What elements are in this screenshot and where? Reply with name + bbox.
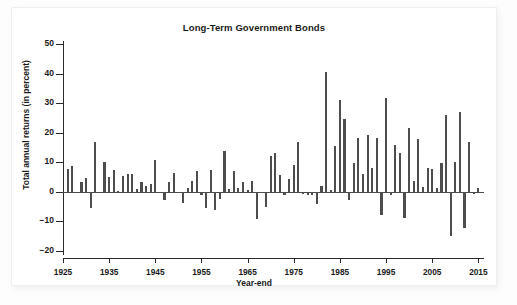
- bar: [311, 192, 313, 196]
- bar: [371, 168, 373, 192]
- chart-panel: Long-Term Government Bonds Total annual …: [11, 7, 497, 286]
- bar: [210, 170, 212, 192]
- x-axis-title: Year-end: [12, 278, 496, 288]
- bar: [270, 156, 272, 192]
- bar: [200, 192, 202, 196]
- bar: [163, 192, 165, 200]
- bar: [343, 119, 345, 191]
- bar: [288, 179, 290, 192]
- bar: [256, 192, 258, 219]
- y-tick-label: 40: [14, 68, 54, 78]
- bar: [191, 181, 193, 192]
- bar: [99, 192, 101, 193]
- bar: [348, 192, 350, 200]
- bar: [408, 128, 410, 192]
- bar: [108, 177, 110, 192]
- bar: [159, 192, 161, 193]
- bar: [399, 153, 401, 192]
- bar: [251, 181, 253, 192]
- bar: [196, 171, 198, 192]
- x-tick-label: 1995: [366, 267, 406, 277]
- bar: [403, 192, 405, 219]
- bar: [182, 192, 184, 204]
- bar: [334, 146, 336, 192]
- bar: [205, 192, 207, 209]
- bar: [136, 189, 138, 192]
- chart-title: Long-Term Government Bonds: [12, 22, 496, 33]
- bar: [330, 190, 332, 192]
- bar: [353, 163, 355, 192]
- bar: [214, 192, 216, 210]
- bar: [67, 169, 69, 192]
- bar: [357, 138, 359, 192]
- bar: [90, 192, 92, 208]
- bar: [445, 115, 447, 192]
- bar: [242, 182, 244, 192]
- y-tick: [56, 251, 63, 252]
- bar: [367, 135, 369, 192]
- y-tick-label: 30: [14, 97, 54, 107]
- bar: [145, 186, 147, 192]
- bar: [390, 192, 392, 195]
- x-tick-label: 1985: [320, 267, 360, 277]
- y-tick: [56, 192, 63, 193]
- bar: [228, 189, 230, 192]
- x-tick-label: 1935: [89, 267, 129, 277]
- bar: [380, 192, 382, 215]
- y-tick: [56, 44, 63, 45]
- x-tick-label: 2015: [458, 267, 498, 277]
- bar: [339, 100, 341, 192]
- figure-root: Long-Term Government Bonds Total annual …: [0, 0, 517, 305]
- x-tick-label: 2005: [412, 267, 452, 277]
- y-tick-label: −10: [14, 215, 54, 225]
- bar: [94, 142, 96, 192]
- bar: [325, 72, 327, 191]
- y-tick-label: 0: [14, 186, 54, 196]
- bar: [113, 170, 115, 192]
- bar: [85, 178, 87, 192]
- bar: [127, 174, 129, 191]
- y-tick-label: 50: [14, 38, 54, 48]
- bar: [473, 192, 475, 194]
- bar: [302, 192, 304, 194]
- plot-area: [63, 37, 483, 259]
- x-tick-label: 1925: [43, 267, 83, 277]
- bar: [459, 112, 461, 192]
- y-tick: [56, 74, 63, 75]
- bar: [440, 163, 442, 192]
- bar: [223, 151, 225, 192]
- bar: [320, 186, 322, 192]
- bar: [431, 169, 433, 192]
- bar: [154, 160, 156, 192]
- bar: [394, 145, 396, 192]
- bar: [463, 192, 465, 228]
- bar: [427, 168, 429, 192]
- bar: [274, 153, 276, 192]
- bar: [413, 181, 415, 192]
- bar: [80, 182, 82, 192]
- bar: [173, 173, 175, 192]
- bar: [385, 98, 387, 192]
- y-tick: [56, 133, 63, 134]
- bar: [233, 171, 235, 191]
- bar: [122, 176, 124, 192]
- bar: [265, 192, 267, 207]
- bar: [454, 162, 456, 192]
- bar: [362, 174, 364, 192]
- bar: [477, 188, 479, 192]
- bar: [237, 188, 239, 192]
- bar: [468, 142, 470, 192]
- bar: [187, 188, 189, 192]
- x-tick-label: 1965: [228, 267, 268, 277]
- bar: [450, 192, 452, 236]
- x-tick-label: 1945: [135, 267, 175, 277]
- y-tick-label: −20: [14, 245, 54, 255]
- bar: [417, 139, 419, 192]
- bar: [283, 192, 285, 195]
- bar: [279, 175, 281, 192]
- bar: [76, 192, 78, 193]
- bar: [260, 192, 262, 193]
- bar: [219, 192, 221, 199]
- x-tick-label: 1975: [274, 267, 314, 277]
- bar: [177, 192, 179, 193]
